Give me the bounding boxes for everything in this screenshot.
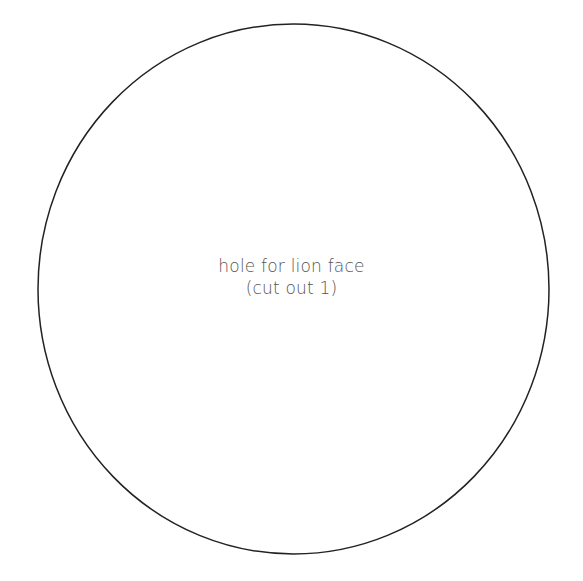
circle-label: hole for lion face (cut out 1) bbox=[0, 255, 583, 299]
label-line-1: hole for lion face bbox=[0, 255, 583, 277]
label-line-2: (cut out 1) bbox=[0, 277, 583, 299]
